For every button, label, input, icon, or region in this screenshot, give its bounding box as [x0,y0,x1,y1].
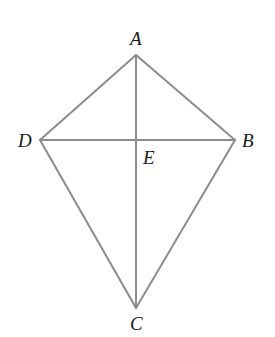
label-d: D [17,130,32,151]
label-b: B [242,130,254,151]
segment-da [40,55,136,140]
segment-ab [136,55,235,140]
label-c: C [130,313,143,334]
label-a: A [128,28,142,49]
label-e: E [142,147,155,168]
kite-diagram: A B C D E [0,0,275,337]
segment-cd [40,140,136,308]
